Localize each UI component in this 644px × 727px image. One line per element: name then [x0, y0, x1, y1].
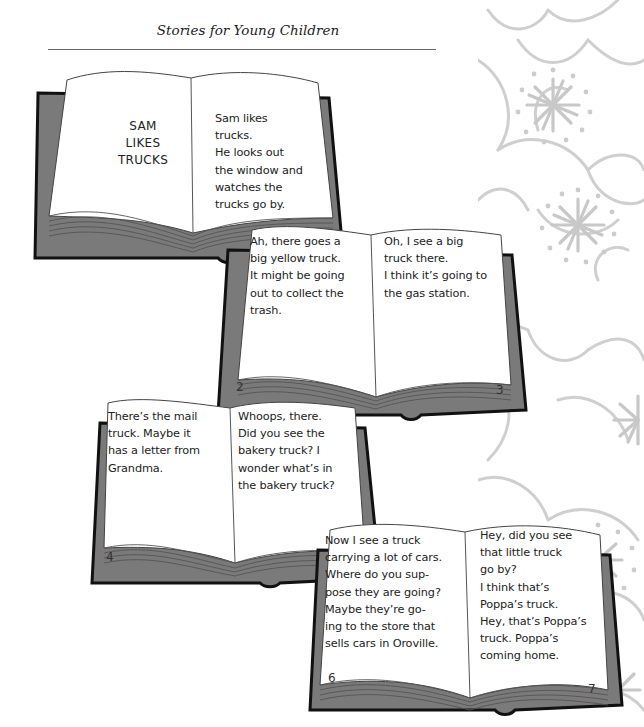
page-text-6: Now I see a truck carrying a lot of cars… — [325, 532, 465, 652]
page-number-4: 4 — [106, 550, 114, 564]
page-number-2: 2 — [236, 380, 244, 394]
page-text-2: Ah, there goes a big yellow truck. It mi… — [250, 233, 372, 319]
page-text-3: Oh, I see a big truck there. I think it’… — [384, 233, 509, 302]
book-title: SAM LIKES TRUCKS — [103, 118, 183, 169]
page-number-3: 3 — [496, 383, 504, 397]
page-text-1: Sam likes trucks. He looks out the windo… — [215, 110, 330, 213]
header-divider — [48, 49, 436, 50]
page-text-4: There’s the mail truck. Maybe it has a l… — [108, 408, 228, 477]
page-number-6: 6 — [328, 671, 336, 685]
page-number-7: 7 — [588, 682, 596, 696]
page-text-7: Hey, did you see that little truck go by… — [480, 527, 605, 665]
page-header-title: Stories for Young Children — [60, 22, 436, 38]
book-spread-4: Now I see a truck carrying a lot of cars… — [310, 520, 625, 720]
page-text-5: Whoops, there. Did you see the bakery tr… — [238, 408, 358, 494]
